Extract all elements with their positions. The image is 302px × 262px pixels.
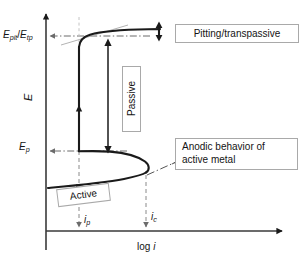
up-arrow-marker xyxy=(76,105,82,111)
x-tick-label-ic: ic xyxy=(151,211,157,224)
x-tick-label-ip: ip xyxy=(84,214,90,227)
y-tick-label-epit: Epit/Etp xyxy=(3,29,33,42)
y-axis-label: E xyxy=(22,94,35,101)
anodic-polarization-curve xyxy=(48,29,160,188)
polarization-curve-figure: Epit/Etp Ep E log i ip ic Pitting/transp… xyxy=(0,0,302,262)
y-tick-label-ep: Ep xyxy=(19,141,30,154)
ep-sub: p xyxy=(26,145,30,154)
x-axis-label-var: i xyxy=(153,241,155,252)
epit-main: E xyxy=(3,29,10,40)
pitting-end-arrow xyxy=(156,22,163,42)
ep-main: E xyxy=(19,141,26,152)
etp-sub: tp xyxy=(27,33,33,42)
annotation-pitting-text: Pitting/transpassive xyxy=(194,28,281,39)
ic-sub: c xyxy=(153,215,157,224)
annotation-anodic-line2: active metal xyxy=(182,154,235,165)
passive-range-double-arrow xyxy=(104,39,111,154)
etp-main: E xyxy=(20,29,27,40)
annotation-passive-text: Passive xyxy=(126,81,137,116)
annotation-active-text: Active xyxy=(69,187,97,201)
annotation-box-anodic-behavior: Anodic behavior of active metal xyxy=(175,138,298,170)
x-axis-label: log i xyxy=(137,241,155,253)
annotation-box-passive: Passive xyxy=(122,66,141,132)
annotation-box-pitting: Pitting/transpassive xyxy=(175,24,299,43)
ip-sub: p xyxy=(86,218,90,227)
annotation-anodic-line1: Anodic behavior of xyxy=(182,141,265,152)
anodic-leader-line xyxy=(147,162,176,175)
